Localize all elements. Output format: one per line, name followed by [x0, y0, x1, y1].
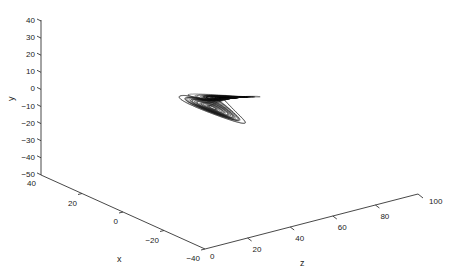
z-tick-label: 80	[380, 212, 389, 221]
x-tick-label: 40	[27, 179, 36, 188]
x-tick-label: −40	[186, 254, 200, 263]
z-tick-label: 100	[429, 197, 443, 206]
y-tick-label: −20	[21, 119, 35, 128]
x-tick-label: 20	[68, 199, 77, 208]
y-tick-label: −10	[21, 102, 35, 111]
lorenz-attractor-plot: 403020100−10−20−30−40−50 y 40200−20−40 x…	[0, 0, 449, 277]
x-axis: 40200−20−40 x	[27, 175, 205, 264]
y-tick-label: 20	[26, 50, 35, 59]
y-tick-label: 10	[26, 67, 35, 76]
y-tick-label: 30	[26, 33, 35, 42]
z-tick-label: 40	[295, 234, 304, 243]
y-tick-label: 0	[31, 84, 36, 93]
attractor-trajectory	[179, 94, 260, 123]
y-axis: 403020100−10−20−30−40−50 y	[6, 16, 41, 179]
y-tick-label: −40	[21, 153, 35, 162]
z-tick-label: 0	[210, 252, 215, 261]
y-axis-label: y	[6, 96, 16, 101]
z-tick-label: 60	[338, 223, 347, 232]
x-tick-label: −20	[145, 236, 159, 245]
y-tick-label: 40	[26, 16, 35, 25]
z-tick-label: 20	[253, 245, 262, 254]
x-axis-label: x	[117, 254, 122, 264]
y-tick-label: −50	[21, 170, 35, 179]
x-tick-label: 0	[114, 217, 119, 226]
y-tick-label: −30	[21, 136, 35, 145]
z-axis: 020406080100 z	[205, 194, 443, 268]
z-axis-label: z	[300, 258, 305, 268]
